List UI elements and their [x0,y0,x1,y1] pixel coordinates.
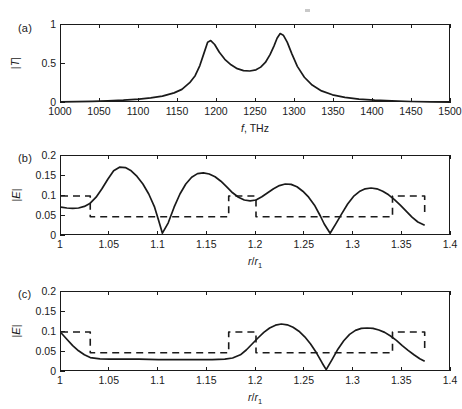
panel-c-x-tick-label: 1.15 [196,374,216,386]
panel-a-y-tickmark [60,63,65,64]
panel-b-x-tickmark-top [60,155,61,159]
panel-a-x-tick-label: 1200 [204,105,227,117]
panel-a-x-tickmark-top [411,24,412,28]
panel-a-x-tick-label: 1450 [399,105,422,117]
panel-c-x-tick-label: 1.3 [345,374,360,386]
panel-b-y-tickmark [60,215,65,216]
panel-b-x-tick-label: 1.2 [248,238,263,250]
series-index-profile [61,332,425,353]
panel-c-x-tickmark [255,367,256,371]
panel-c-plot-area [60,291,450,371]
panel-c-x-tickmark-top [401,291,402,295]
panel-c-x-tickmark [401,367,402,371]
panel-c-x-tickmark [352,367,353,371]
panel-a-x-tickmark [216,98,217,102]
panel-a-x-tick-label: 1100 [127,105,150,117]
panel-b-x-tickmark [352,231,353,235]
series-field-magnitude [61,324,425,370]
panel-b-y-tickmark [60,155,65,156]
panel-a-y-tickmark [60,24,65,25]
panel-a-x-tickmark [372,98,373,102]
panel-b-x-tick-label: 1.3 [345,238,360,250]
panel-a-x-tick-label: 1400 [360,105,383,117]
panel-c-x-tickmark-top [255,291,256,295]
panel-c-x-tickmark-top [108,291,109,295]
panel-b-y-tick-label: 0 [12,229,56,241]
panel-a-x-tickmark [450,98,451,102]
panel-a-x-tickmark [294,98,295,102]
panel-b-x-tickmark-top [450,155,451,159]
series-transmission [61,34,451,102]
panel-b-x-tickmark-top [157,155,158,159]
panel-a-x-tick-label: 1350 [321,105,344,117]
panel-c-y-tick-label: 0.1 [12,325,56,337]
panel-a-x-tickmark-top [450,24,451,28]
panel-b-x-axis-label: r/r1 [248,255,262,270]
panel-b-y-tickmark [60,195,65,196]
panel-c-y-tick-label: 0 [12,365,56,377]
panel-c-x-tickmark-top [450,291,451,295]
panel-b-x-tickmark [401,231,402,235]
panel-c-y-tickmark [60,331,65,332]
panel-b-x-tickmark-top [108,155,109,159]
figure-root: (a) |T| f, THz (b) |E| r/r1 (c) |E| r/r1… [0,0,462,409]
scan-artifact [305,9,310,12]
panel-c-y-tickmark [60,371,65,372]
panel-c-x-tickmark [60,367,61,371]
panel-a-x-tick-label: 1050 [87,105,110,117]
panel-b-x-tickmark [255,231,256,235]
panel-b-x-tick-label: 1.15 [196,238,216,250]
panel-a-y-tick-label: 1 [12,18,56,30]
panel-c-x-axis-label: r/r1 [248,391,262,406]
panel-a-plot-area [60,24,450,102]
panel-c-x-tickmark-top [206,291,207,295]
panel-a-x-tickmark-top [60,24,61,28]
panel-b-x-tick-label: 1.25 [294,238,314,250]
panel-b-x-tick-label: 1.05 [99,238,119,250]
panel-c-x-tick-label: 1.05 [99,374,119,386]
panel-b-x-tickmark-top [352,155,353,159]
panel-c-x-tickmark-top [157,291,158,295]
panel-b-curves [61,156,451,236]
panel-a-y-tickmark [60,102,65,103]
panel-b-x-tick-label: 1.4 [443,238,458,250]
panel-a-x-tickmark-top [333,24,334,28]
panel-a-x-tickmark [333,98,334,102]
panel-b-x-tickmark [157,231,158,235]
panel-c-x-tick-label: 1.2 [248,374,263,386]
panel-c-y-tick-label: 0.15 [12,305,56,317]
panel-c-x-tick-label: 1.35 [391,374,411,386]
panel-a-x-tickmark [99,98,100,102]
panel-c-x-tickmark-top [303,291,304,295]
panel-a-x-tickmark [411,98,412,102]
panel-a-x-axis-label: f, THz [241,122,269,134]
panel-a-x-tick-label: 1250 [243,105,266,117]
panel-a-y-tick-label: 0.5 [12,57,56,69]
panel-a-x-tickmark-top [372,24,373,28]
panel-a-x-tickmark-top [177,24,178,28]
panel-b-y-tick-label: 0.05 [12,209,56,221]
panel-a-x-tickmark [138,98,139,102]
panel-c-y-tick-label: 0.05 [12,345,56,357]
panel-b-x-tickmark-top [206,155,207,159]
panel-c-y-tickmark [60,311,65,312]
panel-c-curves [61,292,451,372]
panel-b-x-tickmark-top [255,155,256,159]
panel-c-x-tickmark-top [60,291,61,295]
panel-b-y-tickmark [60,175,65,176]
panel-a-x-tickmark-top [294,24,295,28]
panel-c-x-tickmark [108,367,109,371]
panel-b-x-tick-label: 1.35 [391,238,411,250]
panel-c-x-tick-label: 1.4 [443,374,458,386]
panel-b-x-tick-label: 1 [57,238,63,250]
panel-a-x-tickmark [255,98,256,102]
panel-b-x-tickmark [303,231,304,235]
panel-a-x-tickmark-top [138,24,139,28]
panel-b-x-tick-label: 1.1 [150,238,165,250]
panel-c-x-tickmark [303,367,304,371]
panel-a-x-tick-label: 1000 [48,105,71,117]
panel-c-x-tickmark-top [352,291,353,295]
panel-a-x-tick-label: 1500 [438,105,461,117]
series-field-magnitude [61,167,425,233]
panel-c-x-tick-label: 1.1 [150,374,165,386]
